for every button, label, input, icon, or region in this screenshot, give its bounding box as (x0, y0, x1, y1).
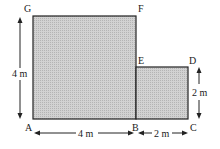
vertex-c-label: C (190, 122, 197, 133)
vertex-g-label: G (24, 3, 31, 14)
square-bedc (136, 67, 188, 119)
bottom-left-dimension-label: 4 m (78, 128, 94, 139)
composite-shape-diagram: G F E D A B C 4 m 4 m 2 m 2 m (0, 0, 220, 149)
vertex-a-label: A (25, 122, 33, 133)
right-dimension-label: 2 m (192, 87, 208, 98)
square-agfb (33, 16, 136, 119)
left-dimension-label: 4 m (12, 68, 28, 79)
vertex-d-label: D (189, 55, 196, 66)
vertex-f-label: F (138, 3, 144, 14)
vertex-e-label: E (138, 55, 144, 66)
bottom-right-dimension-label: 2 m (154, 128, 170, 139)
vertex-b-label: B (132, 122, 139, 133)
